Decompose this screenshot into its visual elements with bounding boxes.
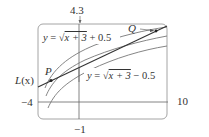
- x-min-label: −4: [21, 97, 33, 108]
- x-max-label: 10: [177, 96, 188, 107]
- eq-radicand: x + 3: [65, 32, 87, 43]
- eq-equals: =: [92, 70, 103, 81]
- lower-curve-equation: y = √x + 3 − 0.5: [87, 71, 155, 82]
- point-q-marker: [155, 30, 158, 33]
- y-max-label: 4.3: [70, 5, 84, 16]
- upper-curve-equation: y = √x + 3 + 0.5: [43, 33, 111, 44]
- eq-tail: − 0.5: [131, 70, 155, 81]
- plot-svg: [0, 0, 209, 137]
- eq-equals: =: [48, 32, 59, 43]
- line-l-label: L(x): [15, 75, 34, 86]
- point-p-marker: [49, 79, 52, 82]
- line-l-arg: (x): [21, 74, 34, 86]
- point-q-label: Q: [128, 23, 136, 34]
- arrow-head-icon: [79, 20, 82, 24]
- linear-approximation-figure: 4.3 −1 −4 10 L(x) P Q y = √x + 3 + 0.5 y…: [0, 0, 209, 137]
- eq-tail: + 0.5: [87, 32, 111, 43]
- y-min-label: −1: [74, 124, 86, 135]
- curve-middle: [46, 36, 167, 96]
- eq-radicand: x + 3: [109, 70, 131, 81]
- point-p-label: P: [45, 66, 52, 77]
